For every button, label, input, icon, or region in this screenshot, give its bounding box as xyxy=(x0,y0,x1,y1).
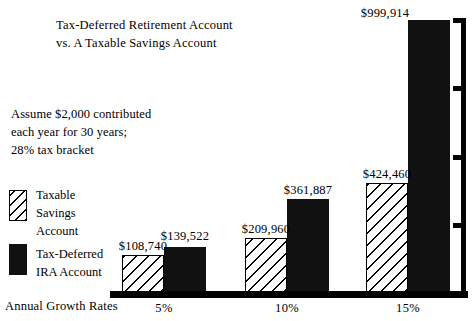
x-axis-caption: Annual Growth Rates xyxy=(5,299,118,314)
bar-taxable-15pct xyxy=(366,183,408,292)
bar-taxable-5pct xyxy=(122,255,164,292)
bar-ira-10pct xyxy=(287,199,329,292)
y-axis-tick-3 xyxy=(453,86,462,91)
bar-value-taxable-15pct: $424,460 xyxy=(347,167,427,182)
y-axis-tick-2 xyxy=(453,155,462,160)
y-axis-tick-4 xyxy=(453,18,462,23)
bar-ira-15pct xyxy=(408,20,450,292)
x-tick-label-5pct: 5% xyxy=(124,301,204,316)
bar-value-ira-15pct: $999,914 xyxy=(345,6,425,21)
plot-area: $108,740 $139,522 $209,960 $361,887 $424… xyxy=(0,0,474,321)
y-axis-tick-1 xyxy=(453,223,462,228)
chart-canvas: Tax-Deferred Retirement Account vs. A Ta… xyxy=(0,0,474,321)
bar-value-ira-5pct: $139,522 xyxy=(145,229,225,244)
x-tick-label-15pct: 15% xyxy=(368,301,448,316)
bar-value-ira-10pct: $361,887 xyxy=(268,183,348,198)
x-tick-label-10pct: 10% xyxy=(247,301,327,316)
bar-taxable-10pct xyxy=(245,238,287,292)
x-axis-line xyxy=(110,291,468,298)
bar-value-taxable-10pct: $209,960 xyxy=(226,222,306,237)
